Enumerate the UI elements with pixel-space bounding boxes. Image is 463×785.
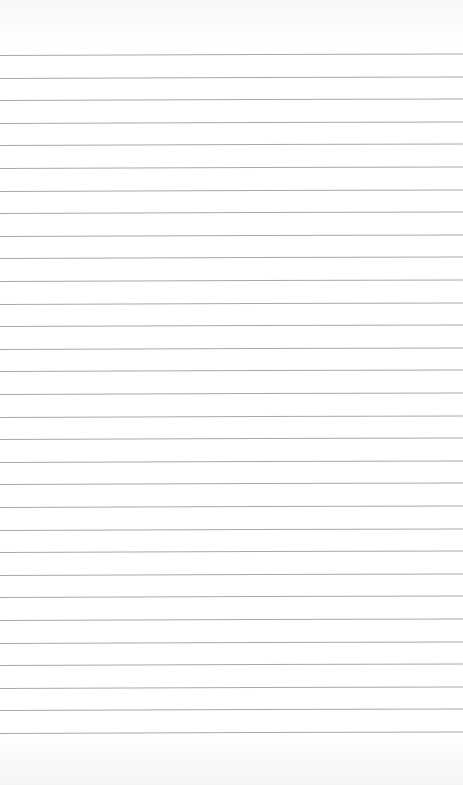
ruled-line <box>0 234 463 237</box>
ruled-line <box>0 53 463 56</box>
ruled-line <box>0 144 463 147</box>
ruled-line <box>0 415 463 418</box>
ruled-line <box>0 528 463 531</box>
ruled-line <box>0 392 463 395</box>
ruled-line <box>0 121 463 124</box>
ruled-line <box>0 76 463 79</box>
ruled-line <box>0 483 463 486</box>
ruled-line <box>0 731 463 734</box>
lined-paper-sheet <box>0 0 463 785</box>
ruled-line <box>0 325 463 328</box>
ruled-line <box>0 302 463 305</box>
ruled-line <box>0 618 463 621</box>
ruled-line <box>0 505 463 508</box>
ruled-line <box>0 257 463 260</box>
ruled-line <box>0 641 463 644</box>
ruled-line <box>0 438 463 441</box>
ruled-line <box>0 664 463 667</box>
ruled-line <box>0 596 463 599</box>
ruled-line <box>0 686 463 689</box>
ruled-line <box>0 99 463 102</box>
ruled-line <box>0 212 463 215</box>
ruled-line <box>0 551 463 554</box>
ruled-line <box>0 370 463 373</box>
ruled-line <box>0 279 463 282</box>
ruled-line <box>0 166 463 169</box>
ruled-line <box>0 189 463 192</box>
ruled-line <box>0 709 463 712</box>
ruled-line <box>0 347 463 350</box>
ruled-line <box>0 460 463 463</box>
ruled-line <box>0 573 463 576</box>
